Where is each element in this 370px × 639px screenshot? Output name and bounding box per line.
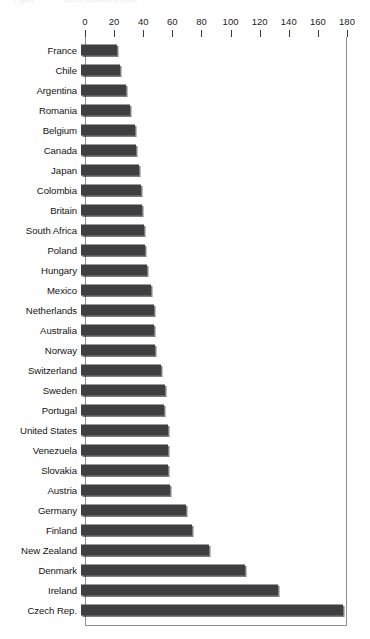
x-tick-label: 160 xyxy=(310,16,326,28)
bar-track xyxy=(81,600,366,620)
bar-track xyxy=(81,420,366,440)
bar-track xyxy=(81,280,366,300)
category-label: Germany xyxy=(0,505,81,516)
category-label: Norway xyxy=(0,345,81,356)
bar-row: United States xyxy=(0,420,370,440)
bar-row: Austria xyxy=(0,480,370,500)
bar xyxy=(81,285,151,296)
x-tick-label: 0 xyxy=(82,16,87,28)
category-label: Japan xyxy=(0,165,81,176)
x-tick-label: 20 xyxy=(109,16,120,28)
bar-row: Venezuela xyxy=(0,440,370,460)
x-tick-mark xyxy=(85,30,86,37)
bar xyxy=(81,105,130,116)
x-tick-mark xyxy=(289,30,290,37)
bar xyxy=(81,325,154,336)
bar xyxy=(81,505,186,516)
category-label: Venezuela xyxy=(0,445,81,456)
bar-track xyxy=(81,540,366,560)
bar-row: Czech Rep. xyxy=(0,600,370,620)
bar-track xyxy=(81,200,366,220)
bar-rows: FranceChileArgentinaRomaniaBelgiumCanada… xyxy=(0,38,370,626)
category-label: Switzerland xyxy=(0,365,81,376)
x-tick-label: 60 xyxy=(167,16,178,28)
x-tick-label: 180 xyxy=(339,16,355,28)
chart-figure: Figure OECD countries, 2001 020406080100… xyxy=(0,0,370,639)
category-label: Czech Rep. xyxy=(0,605,81,616)
x-tick-mark xyxy=(201,30,202,37)
bar-track xyxy=(81,60,366,80)
bar-row: New Zealand xyxy=(0,540,370,560)
category-label: Canada xyxy=(0,145,81,156)
category-label: France xyxy=(0,45,81,56)
bar xyxy=(81,545,209,556)
clipped-caption: Figure OECD countries, 2001 xyxy=(14,0,163,4)
bar-track xyxy=(81,80,366,100)
category-label: Poland xyxy=(0,245,81,256)
bar-track xyxy=(81,300,366,320)
bar-track xyxy=(81,220,366,240)
bar-row: Chile xyxy=(0,60,370,80)
x-tick-label: 140 xyxy=(281,16,297,28)
bar-track xyxy=(81,520,366,540)
bar-track xyxy=(81,440,366,460)
clipped-caption-right: OECD countries, 2001 xyxy=(63,0,137,3)
bar xyxy=(81,165,139,176)
category-label: Chile xyxy=(0,65,81,76)
category-label: Argentina xyxy=(0,85,81,96)
clipped-caption-left: Figure xyxy=(14,0,35,3)
x-tick-mark xyxy=(347,30,348,37)
bar-track xyxy=(81,100,366,120)
bar xyxy=(81,485,170,496)
x-tick-mark xyxy=(318,30,319,37)
category-label: Australia xyxy=(0,325,81,336)
bar xyxy=(81,45,117,56)
bar xyxy=(81,245,145,256)
bar-row: Poland xyxy=(0,240,370,260)
bar xyxy=(81,365,161,376)
category-label: Mexico xyxy=(0,285,81,296)
bar-row: Romania xyxy=(0,100,370,120)
bar-track xyxy=(81,460,366,480)
category-label: Austria xyxy=(0,485,81,496)
bar-track xyxy=(81,500,366,520)
bar-row: Norway xyxy=(0,340,370,360)
bar-track xyxy=(81,240,366,260)
bar xyxy=(81,445,168,456)
bar-row: Australia xyxy=(0,320,370,340)
x-tick-mark xyxy=(260,30,261,37)
bar-row: France xyxy=(0,40,370,60)
bar-row: Finland xyxy=(0,520,370,540)
category-label: Britain xyxy=(0,205,81,216)
bar xyxy=(81,265,147,276)
bar xyxy=(81,605,343,616)
bar xyxy=(81,65,120,76)
bar xyxy=(81,345,155,356)
x-tick-mark xyxy=(172,30,173,37)
bar xyxy=(81,205,142,216)
category-label: New Zealand xyxy=(0,545,81,556)
bar-track xyxy=(81,260,366,280)
x-tick-mark xyxy=(143,30,144,37)
bar-row: Colombia xyxy=(0,180,370,200)
category-label: Portugal xyxy=(0,405,81,416)
category-label: Colombia xyxy=(0,185,81,196)
bar xyxy=(81,465,168,476)
bar-row: Germany xyxy=(0,500,370,520)
category-label: Romania xyxy=(0,105,81,116)
bar-track xyxy=(81,320,366,340)
category-label: United States xyxy=(0,425,81,436)
bar-row: Portugal xyxy=(0,400,370,420)
bar xyxy=(81,225,144,236)
bar-row: Mexico xyxy=(0,280,370,300)
bar-row: Switzerland xyxy=(0,360,370,380)
x-tick-label: 100 xyxy=(223,16,239,28)
bar-row: Ireland xyxy=(0,580,370,600)
x-tick-mark xyxy=(114,30,115,37)
bar xyxy=(81,85,126,96)
bar xyxy=(81,145,136,156)
bar-row: Hungary xyxy=(0,260,370,280)
category-label: Denmark xyxy=(0,565,81,576)
bar-track xyxy=(81,380,366,400)
bar-row: Belgium xyxy=(0,120,370,140)
